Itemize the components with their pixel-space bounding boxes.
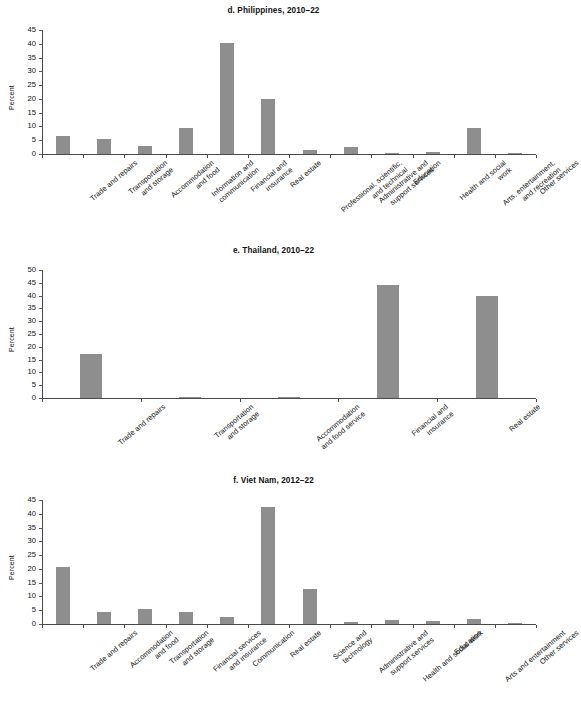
y-tick-mark-philippines-30: [39, 71, 42, 72]
y-tick-mark-vietnam-40: [39, 514, 42, 515]
y-tick-mark-thailand-40: [39, 296, 42, 297]
x-tick-mark-philippines-10: [454, 155, 455, 158]
bar-philippines-financial-and-insurance: [220, 43, 234, 154]
x-tick-label-vietnam-science-and-technology: Science and technology: [331, 629, 374, 669]
y-tick-label-thailand-10: 10: [8, 368, 36, 376]
panel-title-vietnam: f. Viet Nam, 2012–22: [0, 470, 547, 486]
y-tick-label-thailand-40: 40: [8, 292, 36, 300]
bar-vietnam-science-and-technology: [303, 589, 317, 624]
bar-thailand-trade-and-repairs: [80, 354, 102, 398]
x-tick-label-thailand-trade-and-repairs: Trade and repairs: [117, 403, 168, 447]
y-tick-mark-philippines-20: [39, 99, 42, 100]
chart-panel-vietnam: f. Viet Nam, 2012–22 051015202530354045P…: [0, 470, 547, 715]
y-tick-label-thailand-45: 45: [8, 279, 36, 287]
x-tick-mark-vietnam-5: [248, 625, 249, 628]
x-tick-mark-thailand-3: [338, 399, 339, 402]
x-tick-mark-vietnam-10: [454, 625, 455, 628]
x-tick-label-vietnam-education: Education: [453, 629, 484, 657]
x-tick-mark-thailand-0: [42, 399, 43, 402]
y-tick-label-philippines-30: 30: [8, 67, 36, 75]
panel-title-philippines: d. Philippines, 2010–22: [0, 0, 547, 16]
bar-philippines-accommodation-and-food: [138, 146, 152, 154]
x-tick-mark-philippines-8: [371, 155, 372, 158]
y-tick-label-vietnam-35: 35: [8, 524, 36, 532]
bar-vietnam-arts-and-entertainment: [467, 619, 481, 624]
x-tick-label-thailand-accommodation-and-food-service: Accommodation and food service: [314, 403, 367, 452]
bar-philippines-education: [385, 153, 399, 154]
y-tick-mark-vietnam-35: [39, 528, 42, 529]
x-tick-mark-vietnam-0: [42, 625, 43, 628]
x-tick-label-thailand-financial-and-insurance: Financial and insurance: [410, 403, 455, 445]
y-tick-label-vietnam-30: 30: [8, 537, 36, 545]
x-tick-mark-vietnam-2: [124, 625, 125, 628]
x-tick-label-philippines-trade-and-repairs: Trade and repairs: [88, 159, 139, 203]
bar-thailand-transportation-and-storage: [179, 397, 201, 398]
y-tick-mark-vietnam-10: [39, 596, 42, 597]
y-axis-line-thailand: [42, 270, 43, 399]
x-axis-line-thailand: [42, 398, 536, 399]
bar-vietnam-administrative-and-support-services: [344, 622, 358, 624]
bar-vietnam-trade-and-repairs: [56, 567, 70, 624]
y-tick-label-philippines-10: 10: [8, 122, 36, 130]
plot-area-philippines: 051015202530354045PercentTrade and repai…: [0, 16, 547, 245]
y-tick-mark-thailand-30: [39, 321, 42, 322]
x-tick-mark-philippines-9: [413, 155, 414, 158]
plot-area-thailand: 05101520253035404550PercentTrade and rep…: [0, 256, 547, 475]
x-tick-mark-vietnam-end: [536, 625, 537, 628]
x-tick-mark-philippines-6: [289, 155, 290, 158]
y-tick-label-vietnam-40: 40: [8, 510, 36, 518]
x-tick-mark-philippines-1: [83, 155, 84, 158]
bar-philippines-transportation-and-storage: [97, 139, 111, 154]
x-tick-mark-vietnam-3: [166, 625, 167, 628]
y-tick-label-philippines-35: 35: [8, 54, 36, 62]
x-tick-mark-vietnam-7: [330, 625, 331, 628]
y-tick-mark-vietnam-5: [39, 610, 42, 611]
y-axis-title-philippines: Percent: [8, 85, 15, 110]
bar-philippines-trade-and-repairs: [56, 136, 70, 154]
x-tick-mark-philippines-end: [536, 155, 537, 158]
bar-philippines-professional-scientific-and-technical: [303, 150, 317, 154]
y-tick-mark-thailand-5: [39, 385, 42, 386]
y-tick-mark-vietnam-25: [39, 555, 42, 556]
x-tick-mark-vietnam-4: [207, 625, 208, 628]
y-tick-mark-vietnam-20: [39, 569, 42, 570]
x-tick-label-thailand-real-estate: Real estate: [507, 403, 542, 434]
x-tick-mark-thailand-end: [536, 399, 537, 402]
bar-thailand-financial-and-insurance: [377, 285, 399, 398]
y-tick-label-thailand-5: 5: [8, 381, 36, 389]
bar-philippines-other-services: [508, 153, 522, 154]
y-tick-label-vietnam-5: 5: [8, 606, 36, 614]
y-tick-mark-thailand-25: [39, 334, 42, 335]
y-tick-mark-philippines-25: [39, 85, 42, 86]
y-tick-mark-vietnam-30: [39, 541, 42, 542]
bar-philippines-arts-entertainment-and-recreation: [467, 128, 481, 154]
x-tick-mark-vietnam-8: [371, 625, 372, 628]
y-tick-mark-philippines-5: [39, 140, 42, 141]
y-axis-title-vietnam: Percent: [8, 555, 15, 580]
bar-vietnam-communication: [220, 617, 234, 624]
bar-vietnam-accommodation-and-food: [97, 612, 111, 624]
chart-panel-philippines: d. Philippines, 2010–22 0510152025303540…: [0, 0, 547, 240]
panel-title-thailand: e. Thailand, 2010–22: [0, 240, 547, 256]
x-tick-mark-thailand-4: [437, 399, 438, 402]
y-tick-label-philippines-5: 5: [8, 136, 36, 144]
y-tick-label-thailand-30: 30: [8, 317, 36, 325]
y-tick-mark-thailand-50: [39, 270, 42, 271]
y-tick-label-thailand-35: 35: [8, 304, 36, 312]
y-tick-label-philippines-0: 0: [8, 150, 36, 158]
bar-thailand-real-estate: [476, 296, 498, 398]
x-tick-label-vietnam-arts-and-entertainment: Arts and entertainment: [504, 629, 568, 684]
y-tick-label-philippines-40: 40: [8, 40, 36, 48]
x-tick-mark-philippines-5: [248, 155, 249, 158]
y-tick-mark-vietnam-45: [39, 500, 42, 501]
y-tick-mark-thailand-45: [39, 283, 42, 284]
x-tick-mark-philippines-4: [207, 155, 208, 158]
x-tick-label-philippines-financial-and-insurance: Financial and insurance: [250, 159, 295, 201]
y-tick-mark-thailand-15: [39, 360, 42, 361]
bar-philippines-health-and-social-work: [426, 152, 440, 154]
bar-vietnam-transportation-and-storage: [138, 609, 152, 624]
y-tick-mark-philippines-10: [39, 126, 42, 127]
bar-vietnam-real-estate: [261, 507, 275, 624]
x-tick-label-thailand-transportation-and-storage: Transportation and storage: [213, 403, 261, 447]
y-tick-mark-vietnam-15: [39, 583, 42, 584]
